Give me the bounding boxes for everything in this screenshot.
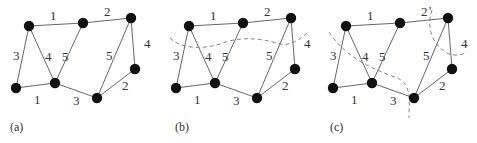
edge-weight-label: 4 <box>362 49 369 64</box>
edge-BE <box>215 23 243 83</box>
edge-BE <box>55 23 83 83</box>
prime-mark: ' <box>429 3 431 18</box>
edge-weight-label: 5 <box>106 48 113 63</box>
edge-weight-label: 1 <box>210 8 217 23</box>
graph-figure: 1234554132 1234554132 1234554132' (a) (b… <box>0 0 477 143</box>
edge-weight-label: 2 <box>264 4 271 19</box>
panel-label-b: (b) <box>175 120 189 134</box>
node-B <box>78 18 88 28</box>
node-C <box>443 13 453 23</box>
edge-weight-label: 5 <box>222 49 229 64</box>
edge-weight-label: 3 <box>73 93 80 108</box>
node-G <box>130 64 140 74</box>
dashed-cut-horizontal <box>170 32 308 47</box>
node-B <box>238 18 248 28</box>
node-D <box>171 83 181 93</box>
node-F <box>409 93 419 103</box>
edge-AB <box>346 23 400 26</box>
edge-weight-label: 5 <box>379 49 386 64</box>
edge-weight-label: 5 <box>62 49 69 64</box>
node-A <box>184 21 194 31</box>
edge-weight-label: 2 <box>122 78 129 93</box>
node-A <box>24 21 34 31</box>
edge-weight-label: 1 <box>367 8 374 23</box>
edge-weight-label: 4 <box>144 36 151 51</box>
edge-DE <box>333 83 372 88</box>
dashed-cut-left-arc <box>329 32 409 118</box>
edge-AB <box>189 23 243 26</box>
panel-label-a: (a) <box>10 120 23 134</box>
node-G <box>447 64 457 74</box>
edge-weight-label: 3 <box>330 48 337 63</box>
edge-weight-label: 5 <box>423 48 430 63</box>
edge-weight-label: 4 <box>304 36 311 51</box>
edge-CG <box>131 18 135 69</box>
panel-label-c: (c) <box>330 120 343 134</box>
edge-weight-label: 1 <box>351 92 358 107</box>
edge-weight-label: 2 <box>282 78 289 93</box>
edge-weight-label: 2 <box>104 4 111 19</box>
edge-weight-label: 3 <box>173 48 180 63</box>
node-E <box>210 78 220 88</box>
edge-CG <box>291 18 295 69</box>
node-A <box>341 21 351 31</box>
edge-CG <box>448 18 452 69</box>
node-D <box>11 83 21 93</box>
node-F <box>252 93 262 103</box>
node-D <box>328 83 338 93</box>
panel-c: 1234554132' <box>328 3 468 118</box>
edge-AB <box>29 23 83 26</box>
node-E <box>50 78 60 88</box>
edge-weight-label: 4 <box>461 36 468 51</box>
node-G <box>290 64 300 74</box>
edge-weight-label: 2 <box>439 78 446 93</box>
node-F <box>92 93 102 103</box>
edge-DE <box>176 83 215 88</box>
edge-weight-label: 1 <box>50 8 57 23</box>
edge-weight-label: 3 <box>390 93 397 108</box>
panel-a: 1234554132 <box>11 4 151 108</box>
edge-weight-label: 1 <box>194 92 201 107</box>
node-C <box>286 13 296 23</box>
edge-weight-label: 3 <box>13 48 20 63</box>
edge-weight-label: 2 <box>421 4 428 19</box>
edge-weight-label: 4 <box>205 49 212 64</box>
edge-weight-label: 1 <box>34 92 41 107</box>
edge-weight-label: 5 <box>266 48 273 63</box>
panel-b: 1234554132 <box>170 4 311 108</box>
edge-weight-label: 3 <box>233 93 240 108</box>
node-C <box>126 13 136 23</box>
node-E <box>367 78 377 88</box>
node-B <box>395 18 405 28</box>
edge-weight-label: 4 <box>45 49 52 64</box>
edge-DE <box>16 83 55 88</box>
